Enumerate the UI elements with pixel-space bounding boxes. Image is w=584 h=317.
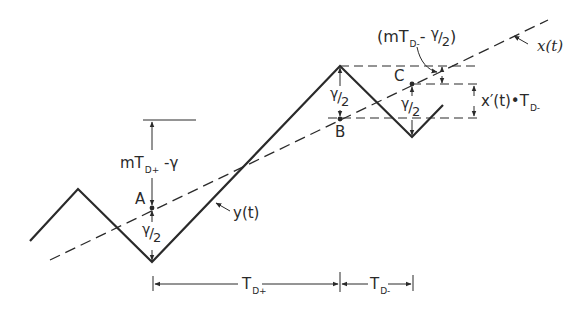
m-td-minus-leader-curve: [417, 47, 437, 72]
td-plus-label: TD+: [242, 277, 267, 292]
td-minus-pre: T: [370, 275, 379, 293]
x-prime-td-minus-label: x′(t)•TD-: [481, 94, 540, 109]
m-td-minus-sub: D-: [410, 39, 420, 49]
x-t-leader: [514, 36, 528, 44]
gamma-half-b-label: γ/2: [330, 90, 349, 104]
x-prime-sub: D-: [530, 103, 540, 113]
point-b-text: B: [335, 123, 345, 141]
m-td-plus-post: -γ: [159, 154, 178, 172]
m-td-plus-sub: D+: [145, 165, 159, 175]
gamma-a-den: 2: [153, 230, 161, 245]
gamma-b-den: 2: [341, 94, 349, 109]
gamma-a-num: γ: [142, 221, 150, 237]
td-minus-sub: D-: [380, 286, 390, 296]
waveform-diagram: x(t) y(t) A B C mTD+ -γ γ/2 γ/2 γ/2 (mTD…: [0, 0, 584, 317]
point-a-text: A: [135, 190, 145, 208]
point-a-label: A: [135, 192, 145, 207]
y-t-leader: [216, 203, 230, 211]
gamma-c-num: γ: [401, 95, 409, 111]
point-b-label: B: [335, 125, 345, 140]
point-a-dot: [150, 206, 155, 211]
gamma-c-den: 2: [412, 104, 420, 119]
y-t-text: y(t): [233, 204, 259, 222]
input-signal-line: [50, 20, 548, 260]
point-c-text: C: [394, 67, 404, 85]
m-td-plus-pre: mT: [120, 154, 144, 172]
m-td-minus-close: ): [450, 27, 456, 46]
m-td-minus-mid: -: [420, 27, 431, 46]
x-t-label: x(t): [537, 39, 563, 54]
td-minus-label: TD-: [370, 277, 390, 292]
point-b-dot: [338, 117, 343, 122]
m-td-minus-num: γ: [431, 25, 439, 41]
m-td-minus-den: 2: [442, 34, 450, 49]
y-t-label: y(t): [233, 206, 259, 221]
diagram-canvas: [0, 0, 584, 317]
gamma-b-num: γ: [330, 85, 338, 101]
x-prime-pre: x′(t)•T: [481, 92, 529, 110]
m-td-minus-gamma-half-label: (mTD-- γ/2): [377, 29, 456, 45]
point-c-label: C: [394, 69, 404, 84]
gamma-half-a-label: γ/2: [142, 226, 161, 240]
output-signal-wave: [30, 66, 443, 262]
td-plus-pre: T: [242, 275, 251, 293]
m-td-minus-open: (mT: [377, 27, 409, 46]
x-t-text: x(t): [537, 37, 563, 55]
point-c-dot: [410, 82, 415, 87]
td-plus-sub: D+: [252, 286, 266, 296]
gamma-half-c-label: γ/2: [401, 100, 420, 114]
m-td-plus-gamma-label: mTD+ -γ: [120, 156, 178, 171]
